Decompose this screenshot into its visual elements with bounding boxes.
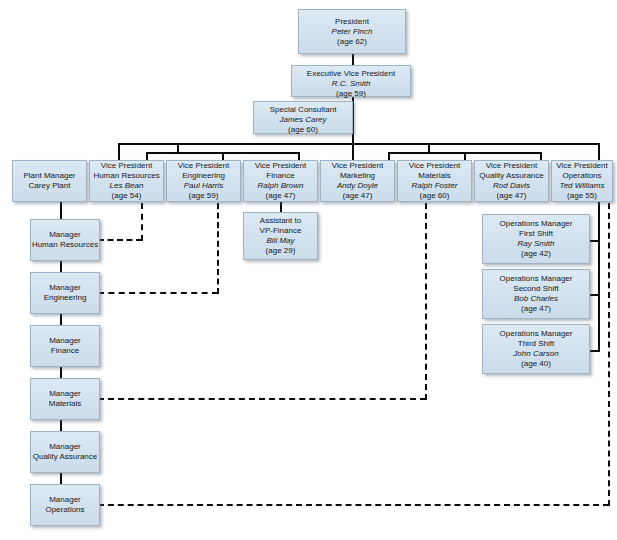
node-mgr-hr-title-line2: Human Resources [32,240,98,250]
connector-sub-bus-left-riser [177,143,179,153]
connector-drop-vp-operations-outer [598,143,600,160]
node-plant-manager[interactable]: Plant Manager Carey Plant [12,160,87,202]
node-special-consultant-age: (age 60) [288,125,318,135]
dashed-mgr-materials-to-vp-horizontal [98,398,426,400]
node-president-name: Peter Finch [332,27,373,37]
node-vp-materials-age: (age 60) [420,191,450,201]
node-manager-materials[interactable]: Manager Materials [30,378,100,420]
node-ops-first-shift-name: Ray Smith [518,239,555,249]
node-special-consultant[interactable]: Special Consultant James Carey (age 60) [253,101,353,134]
node-mgr-hr-title-line1: Manager [49,230,81,240]
node-assistant-finance-age: (age 29) [266,246,296,256]
dashed-mgr-hr-to-vp-hr-horizontal [98,239,142,241]
connector-president-to-exec-vp [352,54,354,65]
connector-drop-vp-materials [388,152,390,160]
node-vp-materials-name: Ralph Foster [412,181,458,191]
node-vp-quality-age: (age 47) [497,191,527,201]
node-vp-engineering[interactable]: Vice President Engineering Paul Harris (… [166,160,241,202]
node-exec-vp-name: R.C. Smith [332,79,371,89]
node-executive-vice-president[interactable]: Executive Vice President R.C. Smith (age… [291,65,411,97]
connector-drop-vp-marketing [352,143,354,160]
node-ops-second-shift-title-line1: Operations Manager [500,274,573,284]
org-chart: President Peter Finch (age 62) Executive… [0,0,617,540]
dashed-mgr-operations-to-vp-vertical [608,203,610,506]
connector-drop-vp-operations [540,152,542,160]
node-ops-third-shift-age: (age 40) [521,359,551,369]
connector-main-bus [118,143,600,145]
node-ops-third-shift-title-line1: Operations Manager [500,329,573,339]
node-president[interactable]: President Peter Finch (age 62) [298,9,406,54]
node-vp-hr-name: Les Bean [110,181,144,191]
connector-drop-vp-quality [464,152,466,160]
node-assistant-to-vp-finance[interactable]: Assistant to VP-Finance Bill May (age 29… [243,212,318,260]
node-vp-finance-title-line1: Vice President [255,161,306,171]
node-vp-human-resources[interactable]: Vice President Human Resources Les Bean … [89,160,164,202]
node-exec-vp-title: Executive Vice President [307,69,395,79]
node-operations-manager-third-shift[interactable]: Operations Manager Third Shift John Cars… [482,324,590,374]
node-president-title: President [335,17,369,27]
node-vp-marketing[interactable]: Vice President Marketing Andy Doyle (age… [320,160,395,202]
node-vp-operations[interactable]: Vice President Operations Ted Williams (… [551,160,613,202]
node-vp-marketing-title-line1: Vice President [332,161,383,171]
node-manager-finance[interactable]: Manager Finance [30,325,100,367]
node-vp-materials[interactable]: Vice President Materials Ralph Foster (a… [397,160,472,202]
node-assistant-finance-title-line2: VP-Finance [260,226,302,236]
dashed-mgr-operations-to-vp-horizontal [98,504,609,506]
node-vp-marketing-name: Andy Doyle [337,181,378,191]
node-vp-operations-age: (age 55) [567,191,597,201]
node-vp-quality-name: Rod Davis [493,181,530,191]
node-vp-finance[interactable]: Vice President Finance Ralph Brown (age … [243,160,318,202]
connector-sub-bus-right-riser [428,143,430,153]
node-exec-vp-age: (age 59) [336,89,366,99]
connector-drop-vp-hr [146,152,148,160]
node-mgr-quality-title-line1: Manager [49,442,81,452]
node-ops-third-shift-title-line2: Third Shift [518,339,554,349]
connector-vp-finance-to-assistant [280,202,282,212]
node-mgr-operations-title-line1: Manager [49,495,81,505]
node-manager-human-resources[interactable]: Manager Human Resources [30,219,100,261]
node-vp-hr-title-line1: Vice President [101,161,152,171]
node-vp-materials-title-line2: Materials [418,171,450,181]
dashed-mgr-engineering-to-vp-vertical [217,203,219,294]
node-vp-engineering-name: Paul Harris [184,181,224,191]
node-vp-quality-title-line1: Vice President [486,161,537,171]
dashed-mgr-engineering-to-vp-horizontal [98,292,218,294]
node-manager-operations[interactable]: Manager Operations [30,484,100,526]
node-operations-manager-first-shift[interactable]: Operations Manager First Shift Ray Smith… [482,214,590,264]
connector-drop-plant-manager [118,143,120,160]
node-vp-marketing-age: (age 47) [343,191,373,201]
node-ops-first-shift-age: (age 42) [521,249,551,259]
node-ops-third-shift-name: John Carson [513,349,558,359]
node-vp-finance-name: Ralph Brown [258,181,304,191]
node-president-age: (age 62) [337,37,367,47]
node-mgr-quality-title-line2: Quality Assurance [33,452,97,462]
node-vp-operations-title-line2: Operations [562,171,601,181]
node-ops-first-shift-title-line1: Operations Manager [500,219,573,229]
node-special-consultant-title: Special Consultant [270,105,337,115]
connector-drop-vp-engineering [222,152,224,160]
node-mgr-engineering-title-line1: Manager [49,283,81,293]
node-vp-quality-assurance[interactable]: Vice President Quality Assurance Rod Dav… [474,160,549,202]
node-vp-engineering-age: (age 59) [189,191,219,201]
node-vp-engineering-title-line2: Engineering [182,171,225,181]
node-plant-manager-title-line1: Plant Manager [23,171,75,181]
node-ops-first-shift-title-line2: First Shift [519,229,553,239]
node-assistant-finance-title-line1: Assistant to [260,216,301,226]
node-manager-quality-assurance[interactable]: Manager Quality Assurance [30,431,100,473]
node-ops-second-shift-title-line2: Second Shift [513,284,558,294]
node-vp-materials-title-line1: Vice President [409,161,460,171]
node-vp-operations-name: Ted Williams [560,181,605,191]
node-ops-second-shift-age: (age 47) [521,304,551,314]
node-ops-second-shift-name: Bob Charles [514,294,558,304]
node-mgr-finance-title-line2: Finance [51,346,79,356]
node-special-consultant-name: James Carey [279,115,326,125]
node-plant-manager-title-line2: Carey Plant [29,181,71,191]
node-mgr-operations-title-line2: Operations [45,505,84,515]
node-vp-engineering-title-line1: Vice President [178,161,229,171]
node-manager-engineering[interactable]: Manager Engineering [30,272,100,314]
node-vp-operations-title-line1: Vice President [556,161,607,171]
node-vp-quality-title-line2: Quality Assurance [479,171,543,181]
node-vp-finance-age: (age 47) [266,191,296,201]
node-operations-manager-second-shift[interactable]: Operations Manager Second Shift Bob Char… [482,269,590,319]
connector-drop-vp-finance [298,152,300,160]
